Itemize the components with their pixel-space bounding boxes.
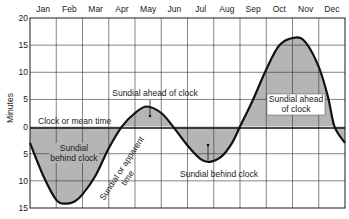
month-label: May	[140, 4, 157, 14]
y-tick-label: 10	[19, 67, 29, 77]
month-label: Mar	[88, 4, 103, 14]
month-label: Dec	[324, 4, 340, 14]
month-label: Sep	[246, 4, 261, 14]
may-ahead-label: Sundial ahead of clock	[112, 88, 198, 98]
y-tick-label: 5	[23, 149, 28, 159]
jul-pointer-dot	[207, 144, 210, 147]
may-pointer-dot	[149, 115, 152, 118]
y-tick-label: 5	[23, 94, 28, 104]
month-label: Jul	[195, 4, 206, 14]
y-axis-label: Minutes	[5, 93, 15, 123]
nov-ahead-label-line2: of clock	[282, 104, 312, 114]
month-label: Feb	[62, 4, 77, 14]
y-tick-label: 15	[19, 203, 29, 213]
month-label: Oct	[273, 4, 287, 14]
x-axis-month-labels: JanFebMarAprMayJunJulAugSepOctNovDec	[36, 4, 340, 14]
month-label: Jun	[168, 4, 182, 14]
y-tick-label: 20	[19, 13, 29, 23]
month-label: Nov	[298, 4, 314, 14]
month-label: Apr	[115, 4, 128, 14]
equation-of-time-chart: JanFebMarAprMayJunJulAugSepOctNovDec 201…	[0, 0, 349, 219]
y-axis-tick-labels: 2015105051015	[19, 13, 29, 213]
zero-line-label: Clock or mean time	[38, 116, 111, 126]
y-tick-label: 0	[23, 122, 28, 132]
month-label: Jan	[36, 4, 50, 14]
nov-ahead-label-line1: Sundial ahead	[269, 94, 324, 104]
jul-behind-label: Sundial behind clock	[180, 169, 259, 179]
y-tick-label: 10	[19, 176, 29, 186]
month-label: Aug	[219, 4, 234, 14]
feb-behind-label-line2: behind clock	[50, 153, 98, 163]
feb-behind-label-line1: Sundial	[60, 143, 88, 153]
y-tick-label: 15	[19, 40, 29, 50]
